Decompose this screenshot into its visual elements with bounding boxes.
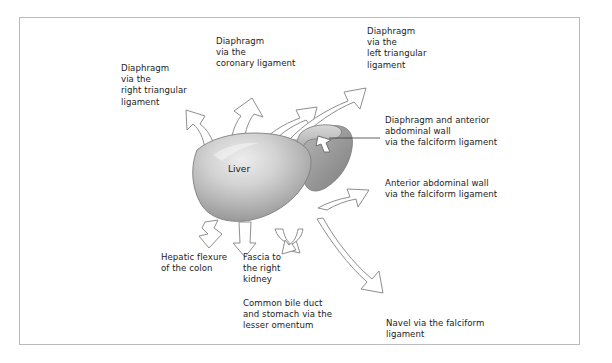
diagram-page: Diaphragm via the right triangular ligam… bbox=[0, 0, 612, 363]
label-coronary-ligament: Diaphragm via the coronary ligament bbox=[216, 36, 324, 70]
label-fascia-right-kidney: Fascia to the right kidney bbox=[243, 252, 303, 286]
label-hepatic-flexure-colon: Hepatic flexure of the colon bbox=[161, 252, 249, 274]
label-diaphragm-anterior-wall: Diaphragm and anterior abdominal wall vi… bbox=[385, 115, 545, 149]
liver-right-lobe bbox=[193, 133, 311, 221]
arrow-hepatic-flexure bbox=[199, 220, 222, 248]
arrow-lesser-omentum-right bbox=[282, 229, 303, 254]
arrow-navel-falciform bbox=[317, 218, 383, 293]
label-right-triangular-ligament: Diaphragm via the right triangular ligam… bbox=[121, 63, 217, 108]
label-navel-falciform-ligament: Navel via the falciform ligament bbox=[386, 318, 526, 340]
label-common-bile-duct-lesser-omentum: Common bile duct and stomach via the les… bbox=[243, 298, 361, 332]
label-anterior-abdominal-wall: Anterior abdominal wall via the falcifor… bbox=[385, 178, 535, 200]
label-left-triangular-ligament: Diaphragm via the left triangular ligame… bbox=[367, 26, 463, 71]
label-liver: Liver bbox=[228, 164, 250, 174]
arrow-anterior-wall bbox=[318, 189, 369, 210]
